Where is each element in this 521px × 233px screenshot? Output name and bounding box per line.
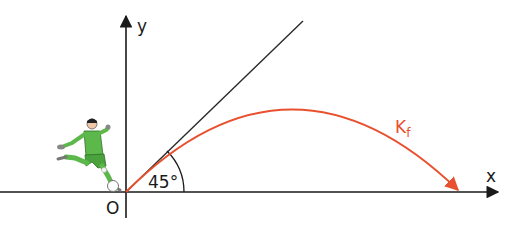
origin-label: O bbox=[106, 198, 119, 218]
curve-label-subscript: f bbox=[406, 126, 411, 140]
angle-label: 45° bbox=[148, 172, 178, 192]
ball-icon bbox=[108, 181, 119, 192]
curve-label: Kf bbox=[395, 117, 411, 140]
x-axis-label: x bbox=[486, 166, 496, 186]
diagram-canvas: y x O 45° Kf bbox=[0, 0, 521, 233]
y-axis-label: y bbox=[137, 16, 147, 36]
soccer-player-icon bbox=[57, 119, 120, 192]
